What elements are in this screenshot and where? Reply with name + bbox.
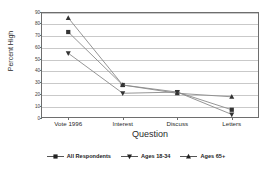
legend-label: All Respondents [67, 153, 111, 160]
square-marker-icon [47, 152, 64, 160]
series-ages-65 [66, 15, 235, 99]
y-axis-tick-label: 70 [24, 33, 40, 38]
chart-legend: All RespondentsAges 18-34Ages 65+ [0, 150, 272, 162]
y-axis-tick-label: 60 [24, 45, 40, 50]
data-point-marker [66, 51, 71, 56]
legend-item[interactable]: Ages 18-34 [121, 152, 171, 160]
data-point-marker [230, 108, 234, 112]
x-axis-tick-label: Letters [222, 120, 241, 128]
x-axis-tick-label: Discuss [166, 120, 188, 128]
triangle-up-marker-icon [180, 152, 197, 160]
x-axis-tick-label: Vote 1996 [54, 120, 82, 128]
line-chart: 0102030405060708090 Percent High Vote 19… [0, 0, 272, 169]
data-point-marker [66, 15, 71, 20]
x-axis-tick-label: Interest [112, 120, 133, 128]
legend-label: Ages 18-34 [141, 153, 171, 160]
legend-item[interactable]: Ages 65+ [180, 152, 225, 160]
y-axis-tick-label: 90 [24, 10, 40, 15]
y-axis-tick-label: 40 [24, 68, 40, 73]
series-line [68, 18, 232, 97]
y-axis-tick-label: 0 [24, 116, 40, 121]
data-point-marker [229, 112, 234, 117]
y-axis-tick-labels: 0102030405060708090 [22, 12, 40, 118]
y-axis-title: Percent High [7, 19, 15, 83]
x-axis-title: Question [41, 129, 259, 140]
legend-item[interactable]: All Respondents [47, 152, 111, 160]
y-axis-tick-label: 10 [24, 104, 40, 109]
y-axis-tick-label: 50 [24, 57, 40, 62]
series-all-respondents [66, 30, 234, 112]
y-axis-tick-label: 80 [24, 21, 40, 26]
series-line [68, 53, 232, 114]
y-axis-tick-label: 20 [24, 92, 40, 97]
y-axis-tick-label: 30 [24, 80, 40, 85]
triangle-down-marker-icon [121, 152, 138, 160]
data-point-marker [66, 30, 70, 34]
legend-label: Ages 65+ [200, 153, 225, 160]
data-series-layer [41, 12, 259, 118]
series-ages-18-34 [66, 51, 235, 117]
